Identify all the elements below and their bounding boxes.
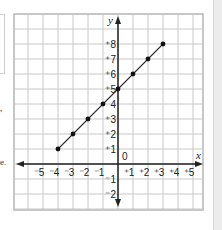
data-point [86, 117, 91, 122]
origin-label: 0 [122, 151, 128, 162]
y-axis-label: y [107, 14, 113, 26]
x-tick-label: ⁻4 [49, 167, 60, 178]
data-point [146, 57, 151, 62]
x-axis-label: x [195, 149, 201, 161]
y-tick-label: ⁺1 [105, 144, 116, 155]
data-point [161, 42, 166, 47]
y-tick-label: ⁺8 [105, 39, 116, 50]
x-tick-label: ⁺2 [139, 167, 150, 178]
x-tick-label: ⁻5 [34, 167, 45, 178]
y-tick-label: ⁻2 [105, 189, 116, 200]
y-tick-label: ⁺5 [105, 84, 116, 95]
y-tick-label: ⁺2 [105, 129, 116, 140]
data-point [56, 147, 61, 152]
x-tick-label: ⁻3 [64, 167, 75, 178]
data-point [131, 72, 136, 77]
data-point [71, 132, 76, 137]
x-tick-label: ⁻1 [94, 167, 105, 178]
coordinate-graph: yx0⁻5⁻4⁻3⁻2⁻1⁺1⁺2⁺3⁺4⁺5⁺8⁺7⁺6⁺54⁺3⁺2⁺1⁻1… [0, 0, 222, 230]
x-tick-label: ⁺3 [154, 167, 165, 178]
x-tick-label: ⁻2 [79, 167, 90, 178]
x-tick-label: ⁺5 [184, 167, 195, 178]
y-tick-label: ⁻1 [105, 174, 116, 185]
y-tick-label: ⁺6 [105, 69, 116, 80]
x-tick-label: ⁺4 [169, 167, 180, 178]
data-point [101, 102, 106, 107]
data-point [116, 87, 121, 92]
y-tick-label: ⁺7 [105, 54, 116, 65]
y-tick-label: ⁺3 [105, 114, 116, 125]
x-tick-label: ⁺1 [124, 167, 135, 178]
y-tick-label: 4 [110, 99, 116, 110]
